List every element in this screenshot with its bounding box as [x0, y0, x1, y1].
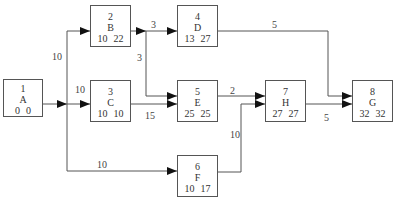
edge-b-e: [146, 31, 177, 96]
edge-f-h: [218, 104, 265, 172]
node-activity-label: F: [178, 172, 217, 183]
node-earliest-start: 27: [273, 108, 283, 119]
node-activity-label: E: [178, 97, 217, 108]
node-earliest-start: 13: [185, 33, 195, 44]
edge-duration-label: 10: [52, 52, 62, 62]
node-latest-start: 10: [114, 108, 124, 119]
node-latest-start: 0: [26, 105, 31, 116]
edge-duration-label: 2: [230, 86, 235, 96]
node-activity-label: G: [353, 97, 392, 108]
node-a: 1A00: [3, 79, 43, 117]
edge-duration-label: 3: [151, 20, 156, 30]
node-activity-label: A: [4, 94, 42, 105]
node-earliest-start: 32: [360, 108, 370, 119]
node-latest-start: 25: [201, 108, 211, 119]
edge-duration-label: 3: [137, 53, 142, 63]
node-latest-start: 27: [201, 33, 211, 44]
node-number: 4: [178, 11, 217, 22]
edge-duration-label: 10: [75, 85, 85, 95]
node-g: 8G3232: [352, 80, 393, 122]
node-h: 7H2727: [265, 80, 306, 122]
node-activity-label: B: [91, 22, 130, 33]
node-earliest-start: 10: [98, 108, 108, 119]
node-latest-start: 32: [376, 108, 386, 119]
node-latest-start: 17: [201, 183, 211, 194]
node-latest-start: 22: [114, 33, 124, 44]
node-number: 5: [178, 86, 217, 97]
node-d: 4D1327: [177, 5, 218, 47]
node-number: 3: [91, 86, 130, 97]
node-number: 1: [4, 83, 42, 94]
node-earliest-start: 10: [98, 33, 108, 44]
node-earliest-start: 0: [15, 105, 20, 116]
edge-duration-label: 5: [324, 113, 329, 123]
node-number: 2: [91, 11, 130, 22]
node-earliest-start: 25: [185, 108, 195, 119]
node-number: 7: [266, 86, 305, 97]
edge-duration-label: 10: [230, 130, 240, 140]
node-e: 5E2525: [177, 80, 218, 122]
node-activity-label: C: [91, 97, 130, 108]
edge-duration-label: 15: [145, 111, 155, 121]
edge-duration-label: 10: [97, 160, 107, 170]
node-b: 2B1022: [90, 5, 131, 47]
node-number: 6: [178, 161, 217, 172]
node-c: 3C1010: [90, 80, 131, 122]
node-latest-start: 27: [289, 108, 299, 119]
node-activity-label: H: [266, 97, 305, 108]
node-f: 6F1017: [177, 155, 218, 197]
node-number: 8: [353, 86, 392, 97]
node-activity-label: D: [178, 22, 217, 33]
edge-duration-label: 5: [272, 20, 277, 30]
node-earliest-start: 10: [185, 183, 195, 194]
